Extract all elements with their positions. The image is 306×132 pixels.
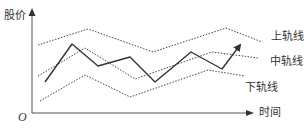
y-axis-arrow-icon <box>29 8 36 16</box>
upper-band-line <box>38 28 262 52</box>
middle-band-label: 中轨线 <box>270 56 303 67</box>
x-axis-arrow-icon <box>246 110 254 116</box>
price-line <box>45 44 240 82</box>
lower-band-label: 下轨线 <box>245 82 278 93</box>
origin-label: O <box>18 111 27 123</box>
lower-band-line <box>40 70 245 101</box>
x-axis-label: 时间 <box>259 107 281 118</box>
upper-band-label: 上轨线 <box>271 31 304 42</box>
y-axis-label: 股价 <box>4 10 26 21</box>
